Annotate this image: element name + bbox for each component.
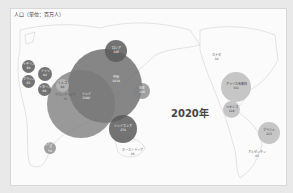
bubble-france: フランス 65: [22, 75, 35, 88]
label-australia: オーストラリア 26: [122, 148, 143, 156]
bubble-brazil: ブラジル 213: [258, 122, 280, 144]
label-saudi: サウジアラビア 35: [55, 93, 76, 101]
label-argentina: アルゼンチン 45: [248, 150, 266, 158]
bubble-italy: イタリア 60: [38, 83, 51, 96]
bubble-japan: 日本 126: [134, 83, 150, 99]
chart-title: 人口（単位：百万人）: [14, 10, 64, 17]
bubble-mexico: メキシコ 129: [223, 101, 240, 118]
bubble-germany: ドイツ 84: [38, 67, 52, 81]
bubble-uk: イギリス 68: [22, 60, 35, 73]
label-canada: カナダ 38: [212, 53, 221, 61]
bubble-turkey: トルコ 84: [56, 79, 69, 92]
bubble-usa: アメリカ合衆国 331: [221, 72, 251, 102]
bubble-indonesia: インドネシア 274: [109, 115, 137, 143]
year-label: 2020年: [171, 105, 209, 120]
bubble-south-africa: 南アフリカ 59: [44, 142, 56, 154]
bubble-russia: ロシア 146: [105, 40, 127, 62]
